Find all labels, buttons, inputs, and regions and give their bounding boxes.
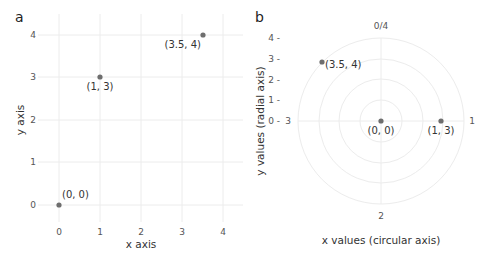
point-label-3.5-4: (3.5, 4) <box>165 39 202 50</box>
polar-point-3.5-4 <box>319 59 324 64</box>
radial-tick-1: 1 - <box>268 95 280 105</box>
panel-a-x-ticks: 0 1 2 3 4 <box>56 227 226 237</box>
polar-point-label-1-3: (1, 3) <box>428 125 455 136</box>
figure: a 0 1 2 3 4 0 1 2 3 4 <box>0 0 488 261</box>
radial-tick-3: 3 - <box>268 54 280 64</box>
x-tick-0: 0 <box>56 227 62 237</box>
polar-point-label-0-0: (0, 0) <box>368 125 395 136</box>
polar-point-1-3 <box>438 118 443 123</box>
panel-b-x-title: x values (circular axis) <box>322 234 440 246</box>
point-3.5-4 <box>200 32 205 37</box>
panel-a-tag: a <box>15 9 24 25</box>
panel-a-y-ticks: 0 1 2 3 4 <box>30 30 36 210</box>
panel-b-points: (0, 0) (1, 3) (3.5, 4) <box>319 59 454 136</box>
x-tick-4: 4 <box>220 227 226 237</box>
x-tick-2: 2 <box>138 227 144 237</box>
y-tick-2: 2 <box>30 115 36 125</box>
angular-tick-top: 0/4 <box>374 21 389 31</box>
panel-b-radial-ticks: 0 - 1 - 2 - 3 - 4 - <box>268 33 280 126</box>
panel-a: a 0 1 2 3 4 0 1 2 3 4 <box>14 9 243 250</box>
polar-point-label-3.5-4: (3.5, 4) <box>325 59 362 70</box>
x-tick-3: 3 <box>179 227 185 237</box>
panel-a-x-title: x axis <box>126 238 157 250</box>
radial-tick-4: 4 - <box>268 33 280 43</box>
y-tick-4: 4 <box>30 30 36 40</box>
panel-b-y-title: y values (radial axis) <box>254 66 266 175</box>
panel-a-y-title: y axis <box>14 105 26 136</box>
x-tick-1: 1 <box>97 227 103 237</box>
panel-b: b 0/4 1 2 3 0 - 1 - 2 - 3 - 4 - x values… <box>254 9 475 246</box>
point-label-1-3: (1, 3) <box>87 81 114 92</box>
angular-tick-bottom: 2 <box>378 211 384 221</box>
polar-point-0-0 <box>378 118 383 123</box>
y-tick-1: 1 <box>30 157 36 167</box>
angular-tick-left: 3 <box>285 116 291 126</box>
y-tick-3: 3 <box>30 72 36 82</box>
angular-tick-right: 1 <box>469 116 475 126</box>
radial-tick-0: 0 - <box>268 116 280 126</box>
point-label-0-0: (0, 0) <box>62 189 89 200</box>
point-1-3 <box>97 74 102 79</box>
radial-tick-2: 2 - <box>268 75 280 85</box>
panel-b-tag: b <box>255 9 264 25</box>
point-0-0 <box>56 202 61 207</box>
y-tick-0: 0 <box>30 200 36 210</box>
